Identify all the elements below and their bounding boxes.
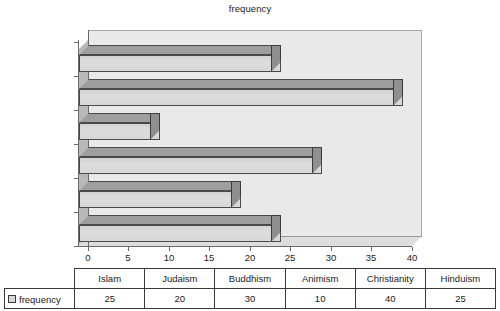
value-tick (169, 247, 170, 251)
bar-christianity (79, 79, 403, 96)
value-tick (88, 247, 89, 251)
table-header-animism: Animism (285, 269, 355, 289)
value-tick-label-15: 15 (194, 252, 224, 263)
bar-islam (79, 215, 281, 232)
bar-front-face (79, 89, 403, 106)
table-header-row: Islam Judaism Buddhism Animism Christian… (5, 269, 496, 289)
legend-square-icon (8, 295, 16, 303)
bar-animism (79, 113, 160, 130)
bar-judaism (79, 181, 241, 198)
page-title: frequency (0, 3, 500, 14)
table-header-christianity: Christianity (355, 269, 425, 289)
table-header-buddhism: Buddhism (215, 269, 285, 289)
table-header-judaism: Judaism (145, 269, 215, 289)
bar-top-face (79, 79, 403, 89)
value-tick (250, 247, 251, 251)
bar-front-face (79, 157, 322, 174)
category-tick (74, 76, 79, 77)
value-tick-label-10: 10 (154, 252, 184, 263)
category-tick (74, 110, 79, 111)
chart-data-table: Islam Judaism Buddhism Animism Christian… (4, 268, 496, 309)
table-cell-animism: 10 (285, 289, 355, 309)
table-cell-judaism: 20 (145, 289, 215, 309)
value-tick (209, 247, 210, 251)
chart-plot-area: Hinduism Christianity Animism Buddhism J… (78, 30, 422, 252)
category-tick (74, 42, 79, 43)
value-tick-label-5: 5 (113, 252, 143, 263)
table-row: frequency 25 20 30 10 40 25 (5, 289, 496, 309)
bar-buddhism (79, 147, 322, 164)
series-legend-cell: frequency (5, 289, 75, 309)
value-tick (290, 247, 291, 251)
table-header-hinduism: Hinduism (425, 269, 495, 289)
bar-front-face (79, 123, 160, 140)
table-cell-buddhism: 30 (215, 289, 285, 309)
table-cell-islam: 25 (75, 289, 145, 309)
value-tick-label-40: 40 (397, 252, 427, 263)
category-tick (74, 212, 79, 213)
bar-hinduism (79, 45, 281, 62)
category-tick (74, 246, 79, 247)
bar-front-face (79, 191, 241, 208)
value-tick-label-0: 0 (73, 252, 103, 263)
value-tick-label-20: 20 (235, 252, 265, 263)
value-tick (128, 247, 129, 251)
bar-front-face (79, 225, 281, 242)
category-tick (74, 144, 79, 145)
value-tick (331, 247, 332, 251)
table-corner-cell (5, 269, 75, 289)
bar-top-face (79, 147, 322, 157)
table-cell-hinduism: 25 (425, 289, 495, 309)
value-tick-label-35: 35 (356, 252, 386, 263)
table-cell-christianity: 40 (355, 289, 425, 309)
value-tick-label-30: 30 (316, 252, 346, 263)
value-tick-label-25: 25 (275, 252, 305, 263)
series-legend-label: frequency (19, 293, 61, 304)
bar-top-face (79, 181, 241, 191)
table-header-islam: Islam (75, 269, 145, 289)
value-tick (371, 247, 372, 251)
bar-top-face (79, 215, 281, 225)
bar-top-face (79, 45, 281, 55)
value-tick (412, 247, 413, 251)
category-tick (74, 178, 79, 179)
bar-front-face (79, 55, 281, 72)
bar-top-face (79, 113, 160, 123)
